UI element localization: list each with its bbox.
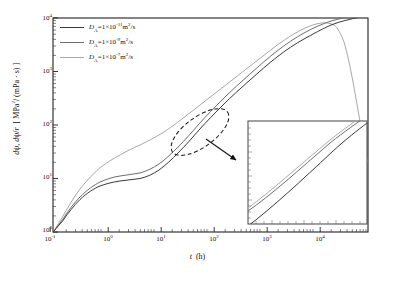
legend-label-0: DA=1×10-11m2/s — [89, 22, 135, 33]
legend-swatch-1 — [60, 42, 84, 43]
legend-item-2: DA=1×10-7m2/s — [60, 50, 180, 65]
callout-arrow — [206, 139, 236, 160]
x-major-ticks — [50, 227, 320, 232]
callout-ellipse — [164, 100, 237, 164]
legend-label-1: DA=1×10-9m2/s — [89, 37, 133, 48]
legend-label-2: DA=1×10-7m2/s — [89, 52, 133, 63]
legend-item-1: DA=1×10-9m2/s — [60, 35, 180, 50]
inset-panel — [248, 121, 367, 224]
figure-container: dψ, dψ/r [ MPa2/ (mPa · s) ] t (h) 10-1 … — [0, 0, 395, 282]
legend-swatch-0 — [60, 27, 84, 28]
legend: DA=1×10-11m2/s DA=1×10-9m2/s DA=1×10-7m2… — [60, 20, 180, 65]
legend-item-0: DA=1×10-11m2/s — [60, 20, 180, 35]
legend-swatch-2 — [60, 57, 84, 58]
